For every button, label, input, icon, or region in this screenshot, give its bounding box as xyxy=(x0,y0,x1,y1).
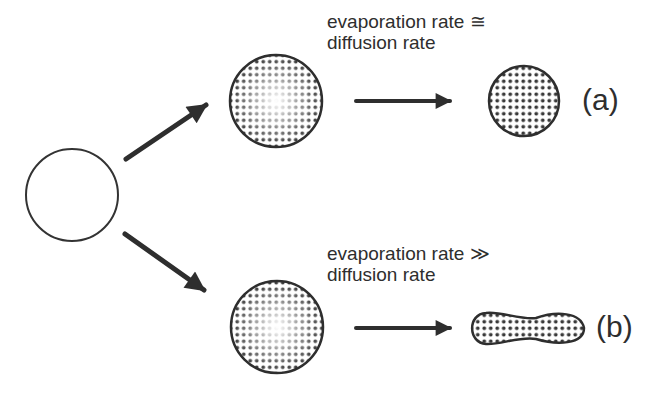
droplet-a-start xyxy=(230,55,322,147)
droplet-a-end xyxy=(489,66,559,136)
initial-droplet xyxy=(26,149,118,241)
branch-b-condition-line2: diffusion rate xyxy=(327,264,435,285)
branch-a-condition-line2: diffusion rate xyxy=(327,32,435,53)
arrow-to-branch-a xyxy=(126,105,206,159)
branch-a-tag: (a) xyxy=(582,84,619,116)
diagram-canvas xyxy=(0,0,662,395)
droplet-b-start xyxy=(231,281,323,373)
branch-a-condition-line1: evaporation rate ≅ xyxy=(327,11,486,32)
branch-b-condition-line1: evaporation rate ≫ xyxy=(327,243,490,264)
branch-b-tag: (b) xyxy=(596,311,633,343)
droplet-b-end xyxy=(472,313,584,344)
arrow-to-branch-b xyxy=(125,234,204,290)
